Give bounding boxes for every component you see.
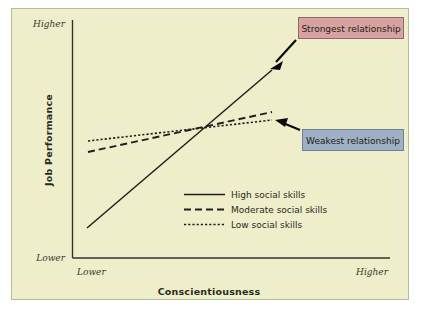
callout-weakest-label: Weakest relationship	[306, 136, 400, 146]
x-axis-title: Conscientiousness	[158, 286, 261, 297]
legend-label-high-social-skills: High social skills	[231, 190, 305, 200]
callout-strongest-label: Strongest relationship	[301, 24, 400, 34]
x-axis-low-label: Lower	[76, 267, 106, 277]
callout-strongest-relationship: Strongest relationship	[270, 18, 404, 71]
legend-label-moderate-social-skills: Moderate social skills	[231, 205, 328, 215]
y-axis-high-label: Higher	[32, 19, 66, 29]
callout-weakest-relationship: Weakest relationship	[275, 118, 404, 151]
chart-legend: High social skills Moderate social skill…	[184, 190, 328, 230]
series-line-moderate-social-skills	[88, 112, 272, 152]
series-line-low-social-skills	[88, 120, 272, 141]
legend-label-low-social-skills: Low social skills	[231, 220, 303, 230]
chart-svg: Higher Lower Lower Higher Job Performanc…	[0, 0, 427, 317]
x-axis-high-label: Higher	[355, 267, 389, 277]
chart-figure: Higher Lower Lower Higher Job Performanc…	[0, 0, 427, 317]
callout-strongest-arrow-line	[276, 40, 296, 62]
y-axis-low-label: Lower	[35, 253, 65, 263]
callout-weakest-arrow-head	[275, 118, 288, 127]
y-axis-title: Job Performance	[43, 94, 54, 187]
